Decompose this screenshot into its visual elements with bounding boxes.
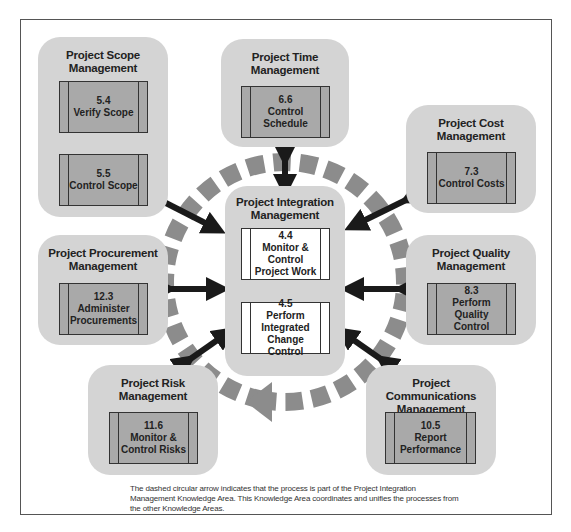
knowledge-area-title: Project Scope Management [38,49,168,75]
process-box-5-5: 5.5Control Scope [59,154,148,206]
process-box-5-4: 5.4Verify Scope [59,81,148,133]
knowledge-area-title: Project Risk Management [108,377,198,403]
process-box-11-6: 11.6Monitor & Control Risks [109,412,198,464]
knowledge-area-title: Project Integration Management [230,196,340,222]
knowledge-area-title: Project Quality Management [421,247,521,273]
process-box-10-5: 10.5Report Performance [385,412,476,464]
process-box-4-4: 4.4Monitor & Control Project Work [241,228,330,280]
knowledge-area-title: Project Communications Management [369,377,494,416]
circle-arrowhead-icon [246,382,272,422]
process-box-8-3: 8.3Perform Quality Control [427,283,516,335]
process-box-7-3: 7.3Control Costs [427,152,516,204]
knowledge-area-title: Project Time Management [235,51,335,77]
process-box-12-3: 12.3Administer Procurements [59,283,148,335]
diagram-caption: The dashed circular arrow indicates that… [130,484,460,514]
process-box-4-5: 4.5Perform Integrated Change Control [241,302,330,354]
knowledge-area-title: Project Procurement Management [48,247,158,273]
process-box-6-6: 6.6Control Schedule [241,86,330,138]
knowledge-area-title: Project Cost Management [421,117,521,143]
